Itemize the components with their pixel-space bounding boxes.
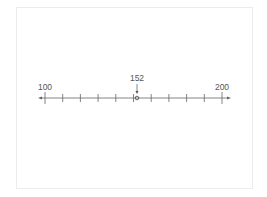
number-line-diagram: 100 200 152	[0, 0, 267, 197]
right-arrow-icon	[227, 97, 231, 100]
pointer-arrow-icon	[136, 91, 139, 94]
end-label: 200	[215, 82, 229, 92]
marked-value-label: 152	[130, 73, 144, 83]
start-label: 100	[38, 82, 52, 92]
left-arrow-icon	[38, 97, 42, 100]
